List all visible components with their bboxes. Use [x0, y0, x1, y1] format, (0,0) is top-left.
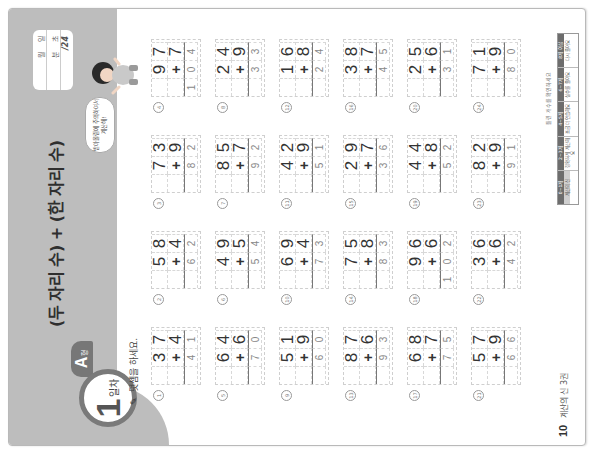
empty-cell	[216, 270, 232, 288]
answer-tens[interactable]: 8	[376, 252, 390, 270]
answer-ones[interactable]: 0	[312, 330, 326, 348]
problem-number: 5	[217, 390, 228, 401]
answer-ones[interactable]: 1	[504, 138, 518, 156]
addition-grid: 57+966	[471, 327, 521, 385]
answer-hundreds[interactable]	[184, 174, 198, 192]
empty-cell	[152, 174, 168, 192]
answer-tens[interactable]: 6	[312, 348, 326, 366]
answer-ones[interactable]: 2	[184, 138, 198, 156]
answer-hundreds[interactable]	[312, 78, 326, 96]
answer-tens[interactable]: 3	[440, 60, 454, 78]
empty-cell	[472, 174, 488, 192]
problem-number: 10	[281, 294, 292, 305]
answer-ones[interactable]: 5	[440, 330, 454, 348]
answer-ones[interactable]: 0	[248, 330, 262, 348]
addend-digit: 4	[168, 234, 184, 252]
answer-ones[interactable]: 3	[376, 234, 390, 252]
answer-hundreds[interactable]	[248, 366, 262, 384]
answer-ones[interactable]: 3	[312, 234, 326, 252]
answer-tens[interactable]: 4	[504, 252, 518, 270]
answer-ones[interactable]: 2	[504, 234, 518, 252]
answer-hundreds[interactable]	[312, 270, 326, 288]
plus-sign: +	[296, 60, 312, 78]
answer-tens[interactable]: 8	[504, 60, 518, 78]
answer-hundreds[interactable]	[504, 366, 518, 384]
answer-tens[interactable]: 4	[376, 60, 390, 78]
problem-number: 17	[409, 390, 420, 401]
answer-tens[interactable]: 5	[312, 156, 326, 174]
problem-10: 1069+473	[279, 219, 327, 305]
day-label: 일차	[106, 379, 121, 397]
answer-hundreds[interactable]	[376, 270, 390, 288]
answer-ones[interactable]: 4	[248, 234, 262, 252]
answer-hundreds[interactable]: 1	[440, 270, 454, 288]
empty-cell	[216, 78, 232, 96]
answer-ones[interactable]: 4	[184, 42, 198, 60]
answer-ones[interactable]: 1	[440, 42, 454, 60]
answer-hundreds[interactable]	[440, 174, 454, 192]
answer-tens[interactable]: 5	[440, 156, 454, 174]
answer-ones[interactable]: 2	[184, 234, 198, 252]
answer-hundreds[interactable]	[312, 174, 326, 192]
tens-digit: 2	[216, 60, 232, 78]
addend-digit: 6	[232, 330, 248, 348]
tens-digit: 8	[344, 348, 360, 366]
answer-tens[interactable]: 6	[184, 252, 198, 270]
answer-tens[interactable]: 7	[440, 348, 454, 366]
answer-tens[interactable]: 8	[184, 156, 198, 174]
answer-ones[interactable]: 2	[248, 138, 262, 156]
answer-ones[interactable]: 1	[184, 330, 198, 348]
empty-cell	[296, 366, 312, 384]
answer-tens[interactable]: 9	[376, 348, 390, 366]
answer-hundreds[interactable]	[376, 366, 390, 384]
answer-tens[interactable]: 7	[312, 252, 326, 270]
answer-hundreds[interactable]	[504, 174, 518, 192]
answer-ones[interactable]: 1	[312, 138, 326, 156]
answer-ones[interactable]: 0	[504, 42, 518, 60]
addition-grid: 64+670	[215, 327, 265, 385]
answer-hundreds[interactable]	[504, 78, 518, 96]
answer-hundreds[interactable]	[376, 78, 390, 96]
tens-digit: 2	[408, 60, 424, 78]
eval-body: 실수를 줄여요	[564, 68, 570, 101]
answer-hundreds[interactable]	[184, 270, 198, 288]
answer-tens[interactable]: 3	[248, 60, 262, 78]
answer-tens[interactable]: 9	[248, 156, 262, 174]
plus-sign: +	[488, 60, 504, 78]
answer-hundreds[interactable]	[504, 270, 518, 288]
answer-ones[interactable]: 4	[312, 42, 326, 60]
answer-tens[interactable]: 2	[312, 60, 326, 78]
problem-number: 11	[281, 198, 292, 209]
addition-grid: 38+745	[343, 39, 393, 97]
answer-tens[interactable]: 4	[184, 348, 198, 366]
answer-tens[interactable]: 7	[248, 348, 262, 366]
answer-tens[interactable]: 3	[376, 156, 390, 174]
answer-hundreds[interactable]	[440, 366, 454, 384]
answer-hundreds[interactable]: 1	[184, 78, 198, 96]
answer-hundreds[interactable]	[312, 366, 326, 384]
answer-tens[interactable]: 0	[440, 252, 454, 270]
answer-ones[interactable]: 5	[376, 42, 390, 60]
problem-number: 19	[409, 198, 420, 209]
answer-hundreds[interactable]	[376, 174, 390, 192]
answer-hundreds[interactable]	[248, 174, 262, 192]
answer-ones[interactable]: 2	[440, 138, 454, 156]
answer-ones[interactable]: 6	[504, 330, 518, 348]
answer-hundreds[interactable]	[248, 270, 262, 288]
answer-hundreds[interactable]	[184, 366, 198, 384]
answer-hundreds[interactable]	[440, 78, 454, 96]
empty-cell	[344, 78, 360, 96]
answer-ones[interactable]: 6	[376, 138, 390, 156]
addend-digit: 5	[232, 234, 248, 252]
answer-tens[interactable]: 0	[184, 60, 198, 78]
problem-20: 2025+631	[407, 27, 455, 113]
answer-tens[interactable]: 5	[248, 252, 262, 270]
empty-cell	[296, 78, 312, 96]
eval-cell: 2~3개정확하게 계산해요	[558, 136, 578, 170]
answer-tens[interactable]: 6	[504, 348, 518, 366]
answer-ones[interactable]: 3	[376, 330, 390, 348]
answer-ones[interactable]: 2	[440, 234, 454, 252]
answer-hundreds[interactable]	[248, 78, 262, 96]
answer-tens[interactable]: 9	[504, 156, 518, 174]
answer-ones[interactable]: 3	[248, 42, 262, 60]
